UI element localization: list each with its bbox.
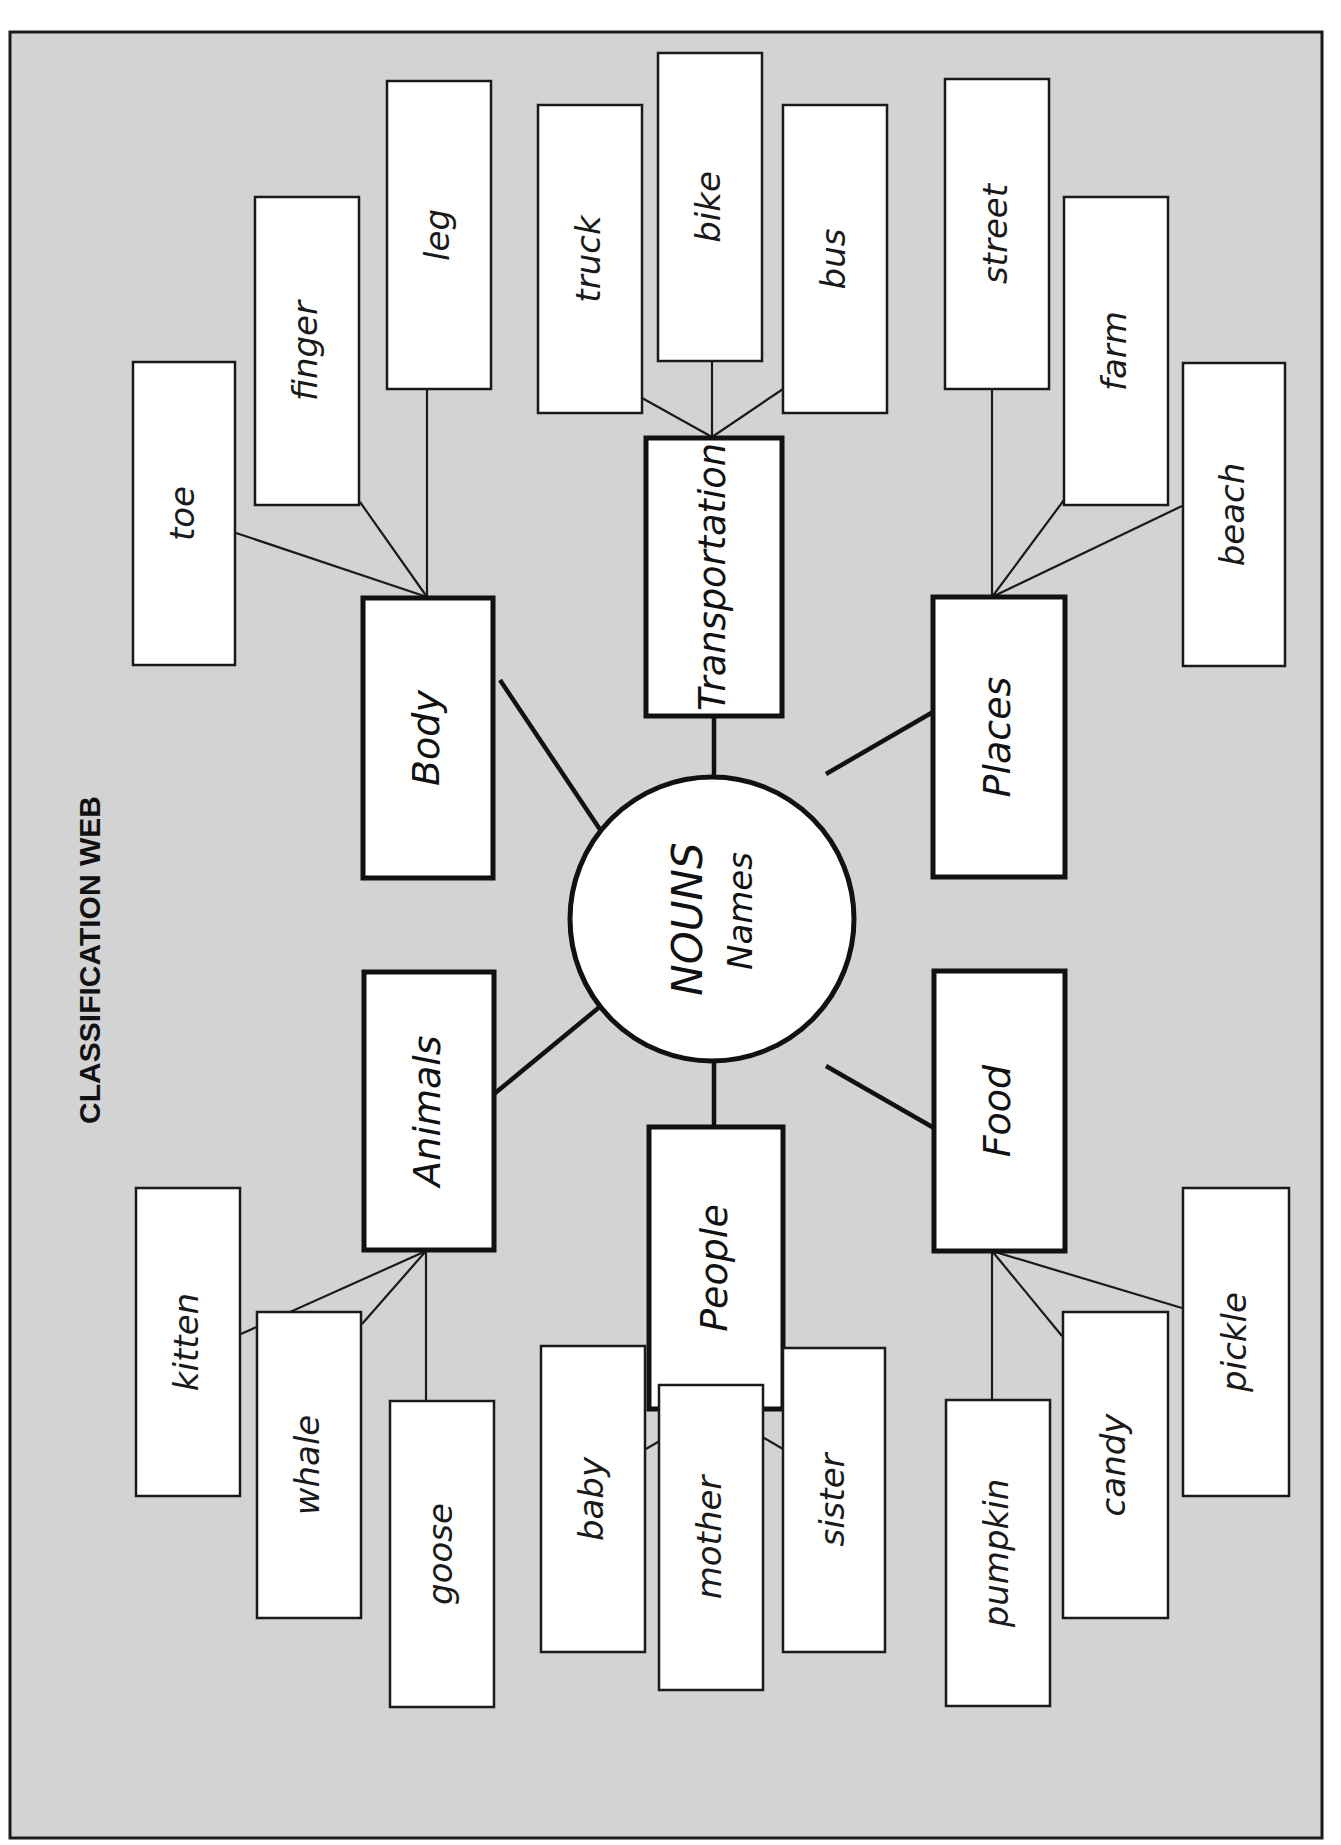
leaf-label-goose: goose (420, 1503, 460, 1605)
category-label-food: Food (975, 1064, 1019, 1157)
leaf-label-mother: mother (689, 1474, 729, 1600)
leaf-kitten: kitten (136, 1188, 240, 1496)
hub-subtitle: Names (720, 852, 760, 970)
leaf-label-candy: candy (1093, 1413, 1133, 1517)
leaf-label-kitten: kitten (166, 1293, 206, 1391)
leaf-bike: bike (658, 53, 762, 361)
leaf-street: street (945, 79, 1049, 389)
leaf-label-beach: beach (1212, 463, 1252, 567)
leaf-label-leg: leg (417, 209, 457, 261)
leaf-label-pickle: pickle (1214, 1292, 1254, 1393)
leaf-bus: bus (783, 105, 887, 413)
leaf-mother: mother (659, 1385, 763, 1690)
leaf-sister: sister (783, 1348, 885, 1652)
leaf-pickle: pickle (1183, 1188, 1289, 1496)
category-label-animals: Animals (405, 1035, 449, 1189)
leaf-label-toe: toe (162, 486, 202, 541)
leaf-truck: truck (538, 105, 642, 413)
category-label-people: People (692, 1204, 736, 1332)
category-label-transportation: Transportation (690, 443, 734, 711)
leaf-label-farm: farm (1094, 311, 1134, 391)
classification-web-diagram: CLASSIFICATION WEB NOUNS Names Bodytoefi… (0, 0, 1341, 1845)
hub-circle (570, 777, 854, 1061)
leaf-label-whale: whale (287, 1415, 327, 1516)
leaf-baby: baby (541, 1346, 645, 1652)
leaf-leg: leg (387, 81, 491, 389)
leaf-beach: beach (1183, 363, 1285, 666)
leaf-label-pumpkin: pumpkin (976, 1479, 1016, 1629)
leaf-goose: goose (390, 1401, 494, 1707)
hub-title: NOUNS (663, 842, 712, 995)
leaf-whale: whale (257, 1312, 361, 1618)
leaf-label-street: street (975, 182, 1015, 284)
category-label-body: Body (404, 690, 448, 786)
leaf-label-bike: bike (688, 171, 728, 243)
leaf-finger: finger (255, 197, 359, 505)
leaf-candy: candy (1063, 1312, 1168, 1618)
category-label-places: Places (975, 677, 1019, 798)
leaf-pumpkin: pumpkin (946, 1400, 1050, 1706)
page-title: CLASSIFICATION WEB (73, 796, 106, 1124)
leaf-label-finger: finger (285, 299, 325, 401)
leaf-farm: farm (1064, 197, 1168, 505)
leaf-label-truck: truck (568, 214, 608, 303)
hub-node: NOUNS Names (570, 777, 854, 1061)
leaf-label-baby: baby (571, 1456, 611, 1541)
leaf-label-sister: sister (812, 1451, 852, 1546)
leaf-toe: toe (133, 362, 235, 665)
leaf-label-bus: bus (813, 229, 853, 290)
